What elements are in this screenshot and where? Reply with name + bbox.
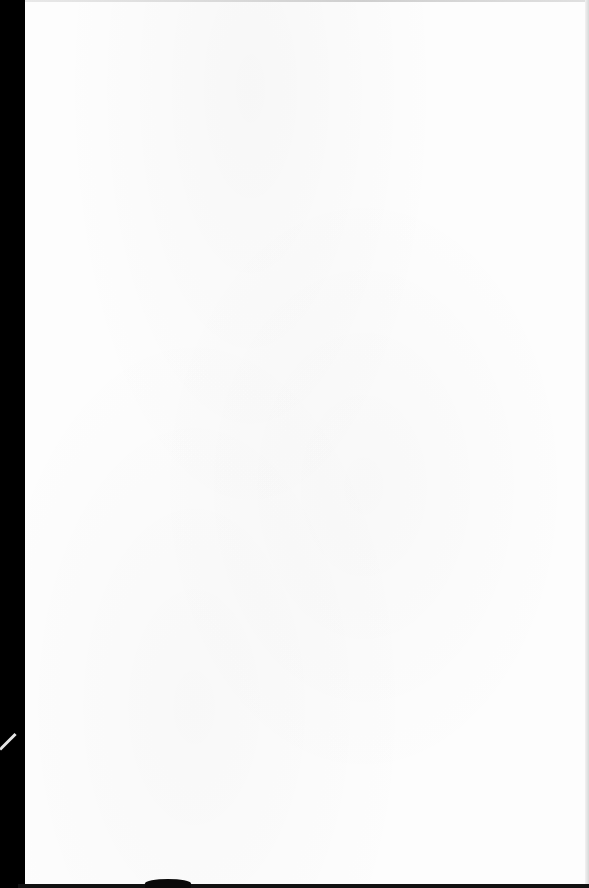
blank-paper-sheet bbox=[25, 0, 589, 884]
scanner-bottom-border bbox=[18, 884, 589, 888]
paper-corner-crease bbox=[0, 733, 17, 751]
paper-right-edge bbox=[585, 0, 589, 884]
paper-top-edge bbox=[25, 0, 589, 2]
scanned-document bbox=[0, 0, 589, 888]
bottom-shadow-mark bbox=[145, 879, 191, 888]
